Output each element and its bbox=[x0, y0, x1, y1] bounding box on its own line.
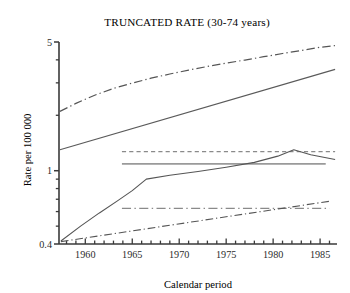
chart-container: TRUNCATED RATE (30-74 years) Rate per 10… bbox=[0, 0, 350, 293]
y-axis-tick-label: 5 bbox=[47, 37, 52, 48]
x-axis-tick-label: 1980 bbox=[263, 249, 283, 260]
x-axis-tick-label: 1970 bbox=[169, 249, 189, 260]
x-axis-tick-label: 1975 bbox=[216, 249, 236, 260]
x-axis-label: Calendar period bbox=[164, 279, 233, 290]
chart-title: TRUNCATED RATE (30-74 years) bbox=[104, 16, 270, 29]
truncated-rate-line-chart: TRUNCATED RATE (30-74 years) Rate per 10… bbox=[0, 0, 350, 293]
x-axis-tick-label: 1965 bbox=[122, 249, 142, 260]
y-axis-tick-label: 1 bbox=[47, 165, 52, 176]
y-axis-tick-label: 0.4 bbox=[39, 239, 52, 250]
x-axis-tick-label: 1960 bbox=[75, 249, 95, 260]
x-axis-tick-label: 1985 bbox=[310, 249, 330, 260]
y-axis-label: Rate per 100 000 bbox=[22, 114, 33, 187]
